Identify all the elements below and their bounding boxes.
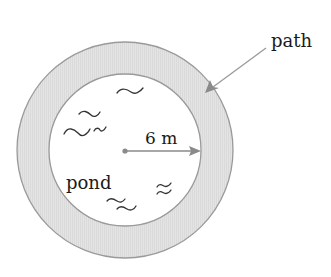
pond-path-diagram: 6 m path pond <box>0 0 331 277</box>
center-dot <box>122 148 127 153</box>
path-label: path <box>271 30 312 51</box>
radius-label: 6 m <box>145 128 177 148</box>
pond-label: pond <box>66 172 111 193</box>
path-pointer-arrow <box>205 48 266 93</box>
